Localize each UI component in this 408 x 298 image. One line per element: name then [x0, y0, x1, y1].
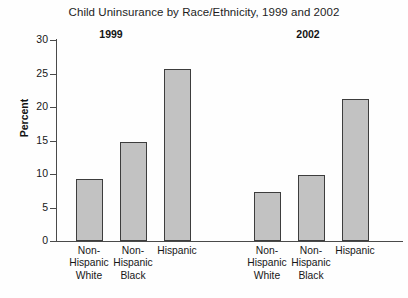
- x-axis-label-line: Hispanic: [322, 245, 388, 257]
- bars-layer: [57, 40, 403, 241]
- group-header-2002: 2002: [268, 28, 348, 40]
- y-tick-label: 10: [4, 167, 48, 179]
- y-tick-label: 0: [4, 234, 48, 246]
- x-axis-label-line: Hispanic: [100, 257, 166, 269]
- y-tick-mark: [50, 107, 56, 108]
- y-tick-mark: [50, 141, 56, 142]
- y-tick-mark: [50, 241, 56, 242]
- y-tick-mark: [50, 74, 56, 75]
- y-tick-mark: [50, 40, 56, 41]
- x-axis-label-line: Hispanic: [278, 257, 344, 269]
- bar: [76, 179, 103, 241]
- x-axis-label-line: Black: [278, 270, 344, 282]
- y-tick-label: 30: [4, 33, 48, 45]
- x-axis-category-label: Hispanic: [144, 245, 210, 257]
- bar: [254, 192, 281, 241]
- y-tick-label: 5: [4, 201, 48, 213]
- y-tick-label: 15: [4, 134, 48, 146]
- x-axis-category-label: Hispanic: [322, 245, 388, 257]
- y-tick-label: 20: [4, 100, 48, 112]
- bar: [164, 69, 191, 241]
- x-axis-label-line: Hispanic: [144, 245, 210, 257]
- y-tick-mark: [50, 208, 56, 209]
- x-axis-label-line: Black: [100, 270, 166, 282]
- y-tick-label: 25: [4, 67, 48, 79]
- group-header-1999: 1999: [71, 28, 151, 40]
- bar: [298, 175, 325, 241]
- bar: [120, 142, 147, 241]
- y-tick-mark: [50, 174, 56, 175]
- chart-figure: Child Uninsurance by Race/Ethnicity, 199…: [0, 0, 408, 298]
- x-axis-line: [56, 241, 403, 242]
- bar: [342, 99, 369, 241]
- chart-title: Child Uninsurance by Race/Ethnicity, 199…: [0, 6, 408, 18]
